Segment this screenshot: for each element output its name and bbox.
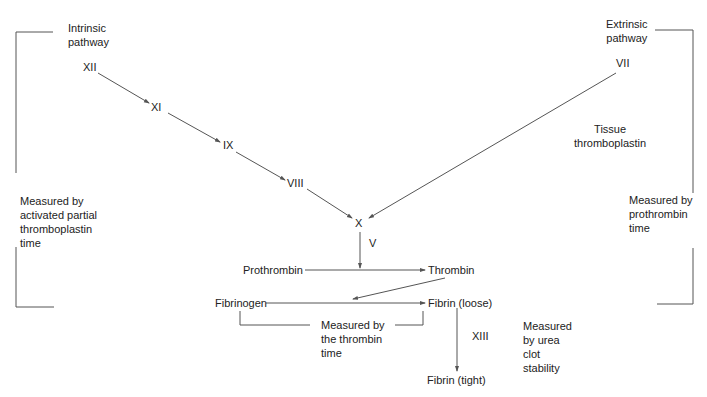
- intrinsic-label-line2: pathway: [68, 35, 109, 49]
- urea-line1: Measured: [523, 319, 572, 333]
- extrinsic-label-line2: pathway: [606, 31, 648, 45]
- pt-measurement-label: Measured by prothrombin time: [629, 193, 693, 235]
- aptt-line1: Measured by: [20, 194, 97, 208]
- extrinsic-bracket: [655, 30, 693, 193]
- factor-xi: XI: [151, 100, 161, 114]
- urea-line3: clot: [523, 347, 572, 361]
- extrinsic-pathway-label: Extrinsic pathway: [606, 17, 648, 45]
- pt-line3: time: [629, 221, 693, 235]
- tissue-line2: thromboplastin: [574, 136, 646, 150]
- fibrinogen-label: Fibrinogen: [215, 296, 267, 310]
- factor-vii: VII: [616, 56, 629, 70]
- aptt-line3: thromboplastin: [20, 222, 97, 236]
- arrow-xi-ix: [168, 113, 220, 142]
- urea-line4: stability: [523, 361, 572, 375]
- factor-x: X: [355, 216, 362, 230]
- arrow-ix-viii: [236, 152, 285, 180]
- arrow-viii-x: [307, 189, 352, 218]
- factor-xii: XII: [83, 60, 96, 74]
- tissue-line1: Tissue: [574, 122, 646, 136]
- factor-v: V: [369, 236, 376, 250]
- thrombin-time-measurement-label: Measured by the thrombin time: [321, 318, 385, 360]
- urea-line2: by urea: [523, 333, 572, 347]
- arrow-xii-xi: [98, 73, 149, 103]
- pt-line1: Measured by: [629, 193, 693, 207]
- factor-viii: VIII: [287, 176, 304, 190]
- factor-ix: IX: [223, 138, 233, 152]
- intrinsic-bracket-bottom: [16, 247, 54, 307]
- pt-line2: prothrombin: [629, 207, 693, 221]
- extrinsic-bracket-bottom: [657, 248, 693, 304]
- aptt-line4: time: [20, 236, 97, 250]
- aptt-line2: activated partial: [20, 208, 97, 222]
- aptt-measurement-label: Measured by activated partial thrombopla…: [20, 194, 97, 250]
- thrombin-label: Thrombin: [428, 263, 474, 277]
- intrinsic-bracket: [16, 32, 53, 173]
- thrombin-time-bracket-left: [240, 311, 310, 325]
- prothrombin-label: Prothrombin: [243, 263, 303, 277]
- fibrin-loose-label: Fibrin (loose): [428, 296, 492, 310]
- thrombin-time-line2: the thrombin: [321, 332, 385, 346]
- intrinsic-label-line1: Intrinsic: [68, 21, 109, 35]
- urea-measurement-label: Measured by urea clot stability: [523, 319, 572, 375]
- tissue-thromboplastin-label: Tissue thromboplastin: [574, 122, 646, 150]
- thrombin-time-bracket-right: [395, 311, 423, 325]
- thrombin-time-line3: time: [321, 346, 385, 360]
- thrombin-time-line1: Measured by: [321, 318, 385, 332]
- factor-xiii: XIII: [472, 329, 489, 343]
- extrinsic-label-line1: Extrinsic: [606, 17, 648, 31]
- fibrin-tight-label: Fibrin (tight): [427, 373, 486, 387]
- intrinsic-pathway-label: Intrinsic pathway: [68, 21, 109, 49]
